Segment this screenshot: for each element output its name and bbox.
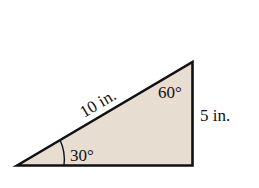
angle-bottom-label: 30° [70,146,94,165]
angle-top-label: 60° [158,83,182,102]
right-triangle [17,62,193,166]
triangle-diagram: 10 in. 60° 5 in. 30° [0,0,259,188]
vertical-side-label: 5 in. [200,106,230,125]
